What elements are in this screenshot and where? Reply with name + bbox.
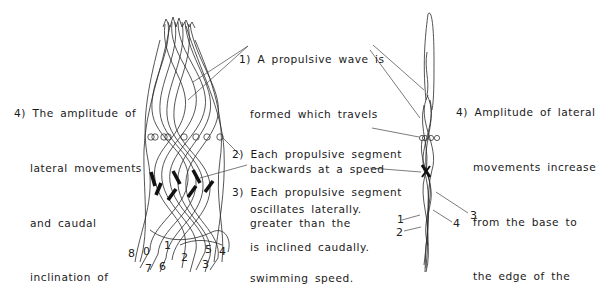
- annotation-line: 1) A propulsive wave is: [239, 50, 385, 68]
- trace-number: 6: [159, 261, 166, 272]
- trace-number: 3: [202, 259, 209, 270]
- annotation-line: lateral movements: [14, 159, 153, 177]
- trace-number: 4: [453, 218, 460, 229]
- annotation-line: from the base to: [456, 213, 598, 231]
- annotation-line: inclination of: [14, 268, 153, 286]
- annotation-line: 4) The amplitude of: [14, 104, 153, 122]
- trace-number: 2: [396, 227, 403, 238]
- annotation-right-4: 4) Amplitude of lateral movements increa…: [456, 67, 598, 286]
- trace-number: 1: [164, 240, 171, 251]
- trace-number: 2: [181, 252, 188, 263]
- trace-number: 5: [205, 244, 212, 255]
- right-fin-traces: [419, 13, 439, 272]
- trace-number: 1: [397, 214, 404, 225]
- trace-number: 3: [470, 210, 477, 221]
- annotation-line: and caudal: [14, 214, 153, 232]
- oscillation-markers: [148, 134, 223, 140]
- annotation-line: 4) Amplitude of lateral: [456, 103, 598, 121]
- annotation-3: 3) Each propulsive segment is inclined c…: [232, 147, 402, 286]
- trace-number: 7: [145, 263, 152, 274]
- annotation-line: 3) Each propulsive segment: [232, 183, 402, 201]
- trace-number: 8: [128, 248, 135, 259]
- trace-number: 4: [219, 246, 226, 257]
- annotation-line: movements increase: [456, 158, 598, 176]
- trace-number: 0: [143, 246, 150, 257]
- annotation-line: is inclined caudally.: [232, 238, 402, 256]
- annotation-line: the edge of the: [456, 267, 598, 285]
